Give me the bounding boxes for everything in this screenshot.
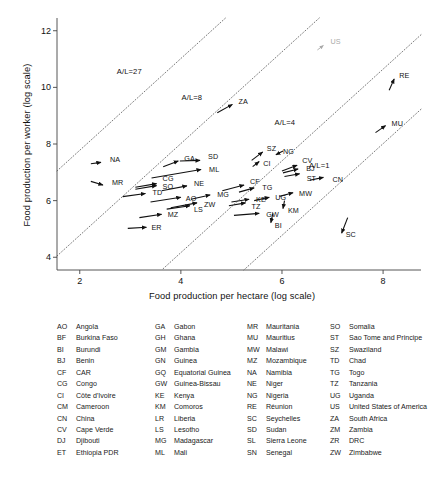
legend-country-code: CV — [57, 425, 76, 436]
legend-row: CVCape Verde — [57, 425, 119, 436]
legend-row: SNSenegal — [247, 448, 307, 459]
legend-country-name: Mozambique — [266, 356, 307, 367]
legend-column-3: MRMauritaniaMUMauritiusMWMalawiMZMozambi… — [247, 322, 307, 459]
point-label-cg: CG — [163, 175, 174, 182]
point-label-sc: SC — [346, 231, 356, 238]
point-label-bi: BI — [275, 222, 282, 229]
point-label-km: KM — [288, 207, 299, 214]
x-tick-label: 4 — [178, 276, 183, 286]
legend-row: MLMali — [155, 448, 231, 459]
legend-country-name: CAR — [76, 368, 91, 379]
legend-country-code: MR — [247, 322, 266, 333]
legend-row: KMComoros — [155, 402, 231, 413]
point-label-za: ZA — [238, 98, 247, 105]
point-label-td: TD — [152, 189, 162, 196]
reference-line-label: A/L=8 — [182, 93, 203, 102]
legend-row: CMCameroon — [57, 402, 119, 413]
legend-country-code: TZ — [330, 379, 349, 390]
legend-country-name: Senegal — [266, 448, 292, 459]
figure-page: A/L=27A/L=8A/L=4A/L=1NAMRTDCGSOGASDMLNEA… — [0, 0, 435, 489]
y-tick-label: 12 — [33, 26, 51, 36]
point-label-mr: MR — [112, 179, 123, 186]
legend-country-name: Guinea-Bissau — [174, 379, 221, 390]
point-label-tg: TG — [262, 184, 272, 191]
y-tick-label: 4 — [33, 252, 51, 262]
x-tick-label: 8 — [381, 276, 386, 286]
x-tick-label: 6 — [279, 276, 284, 286]
legend-country-code: AO — [57, 322, 76, 333]
legend-row: AOAngola — [57, 322, 119, 333]
legend-country-code: SO — [330, 322, 349, 333]
legend-country-code: GM — [155, 345, 174, 356]
legend-country-name: Swaziland — [349, 345, 381, 356]
legend-country-code: ML — [155, 448, 174, 459]
legend-country-code: KM — [155, 402, 174, 413]
country-code-legend: AOAngolaBFBurkina FasoBIBurundiBJBeninCF… — [0, 322, 435, 472]
legend-country-code: GQ — [155, 368, 174, 379]
legend-row: RERéunion — [247, 402, 307, 413]
legend-country-code: NA — [247, 368, 266, 379]
legend-row: CICôte d'Ivoire — [57, 391, 119, 402]
point-label-ne: NE — [194, 180, 204, 187]
legend-row: ZWZimbabwe — [330, 448, 427, 459]
point-label-ao: AO — [186, 195, 197, 202]
legend-country-code: ST — [330, 333, 349, 344]
legend-country-code: ZM — [330, 425, 349, 436]
point-label-tz: TZ — [252, 203, 261, 210]
legend-row: ZMZambia — [330, 425, 427, 436]
legend-country-code: GH — [155, 333, 174, 344]
legend-country-name: DRC — [349, 436, 364, 447]
legend-country-code: CN — [57, 414, 76, 425]
legend-country-name: Namibia — [266, 368, 292, 379]
legend-country-code: CF — [57, 368, 76, 379]
point-label-ga: GA — [184, 155, 195, 162]
x-axis-title: Food production per hectare (log scale) — [57, 291, 407, 301]
reference-line-label: A/L=27 — [117, 67, 142, 76]
legend-row: CGCongo — [57, 379, 119, 390]
legend-row: GHGhana — [155, 333, 231, 344]
point-label-ci: CI — [263, 160, 270, 167]
legend-row: GAGabon — [155, 322, 231, 333]
point-label-us: US — [330, 38, 340, 45]
legend-country-name: Zambia — [349, 425, 373, 436]
legend-row: SZSwaziland — [330, 345, 427, 356]
legend-row: TGTogo — [330, 368, 427, 379]
legend-row: TDChad — [330, 356, 427, 367]
legend-row: MWMalawi — [247, 345, 307, 356]
legend-country-name: Comoros — [174, 402, 203, 413]
point-label-na: NA — [110, 156, 120, 163]
legend-country-code: BJ — [57, 356, 76, 367]
legend-country-code: NE — [247, 379, 266, 390]
y-tick-label: 8 — [33, 139, 51, 149]
legend-column-2: GAGabonGHGhanaGMGambiaGNGuineaGQEquatori… — [155, 322, 231, 459]
legend-row: MRMauritania — [247, 322, 307, 333]
legend-country-code: US — [330, 402, 349, 413]
legend-country-name: Uganda — [349, 391, 374, 402]
legend-row: MGMadagascar — [155, 436, 231, 447]
legend-row: BFBurkina Faso — [57, 333, 119, 344]
point-label-st: ST — [307, 175, 316, 182]
legend-country-code: SL — [247, 436, 266, 447]
point-label-gw: GW — [266, 211, 279, 218]
point-label-zw: ZW — [204, 201, 215, 208]
legend-country-code: GA — [155, 322, 174, 333]
legend-row: LSLesotho — [155, 425, 231, 436]
legend-country-code: ET — [57, 448, 76, 459]
legend-country-code: CG — [57, 379, 76, 390]
point-label-ng: NG — [283, 148, 294, 155]
legend-row: CFCAR — [57, 368, 119, 379]
legend-country-code: MU — [247, 333, 266, 344]
legend-country-name: Seychelles — [266, 414, 300, 425]
legend-country-name: Mauritania — [266, 322, 299, 333]
point-label-ls: LS — [194, 206, 203, 213]
legend-country-name: Réunion — [266, 402, 292, 413]
legend-country-code: KE — [155, 391, 174, 402]
legend-row: ZRDRC — [330, 436, 427, 447]
legend-country-name: Angola — [76, 322, 98, 333]
point-label-sd: SD — [208, 153, 218, 160]
legend-country-code: SN — [247, 448, 266, 459]
legend-country-name: Gambia — [174, 345, 199, 356]
legend-row: GNGuinea — [155, 356, 231, 367]
legend-row: MUMauritius — [247, 333, 307, 344]
legend-row: NGNigeria — [247, 391, 307, 402]
